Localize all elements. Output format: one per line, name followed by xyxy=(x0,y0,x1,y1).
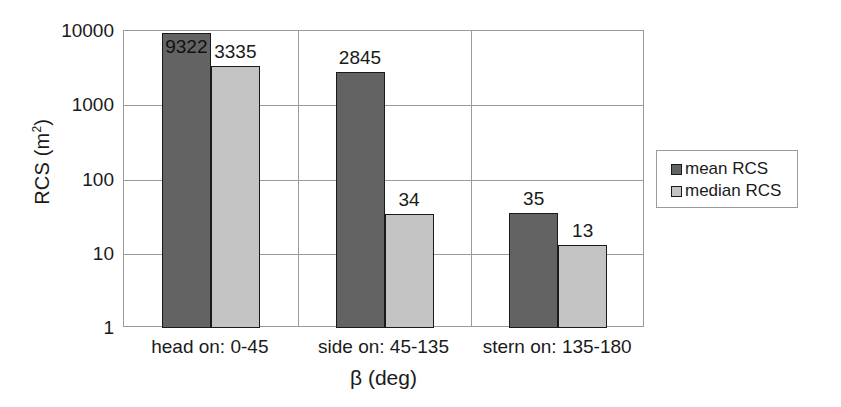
bar-value-label: 3335 xyxy=(205,42,266,61)
bar-mean xyxy=(509,213,558,328)
bar-value-label: 2845 xyxy=(330,48,391,67)
bar-value-label: 34 xyxy=(379,190,440,209)
y-axis-tick-label: 10000 xyxy=(11,21,123,40)
bar-value-label: 35 xyxy=(503,189,564,208)
bar-mean xyxy=(162,33,211,328)
x-axis-category-label: stern on: 135-180 xyxy=(447,336,667,357)
legend-swatch-mean-icon xyxy=(671,164,682,175)
legend-swatch-median-icon xyxy=(671,186,682,197)
legend-item-mean: mean RCS xyxy=(671,158,797,180)
x-axis-title: β (deg) xyxy=(123,366,644,390)
bar-mean xyxy=(336,72,385,328)
legend-label-median: median RCS xyxy=(685,181,781,201)
plot-area: 932233352845343513 xyxy=(123,30,644,327)
legend: mean RCS median RCS xyxy=(656,150,798,208)
y-axis-tick-label: 1000 xyxy=(11,95,123,114)
category-separator xyxy=(298,31,299,326)
chart-figure: RCS (m2) 100001000100101 932233352845343… xyxy=(0,0,841,407)
y-axis-tick-label: 10 xyxy=(11,244,123,263)
bar-median xyxy=(558,245,607,328)
legend-label-mean: mean RCS xyxy=(685,159,768,179)
legend-item-median: median RCS xyxy=(671,180,797,202)
y-axis-tick-label: 1 xyxy=(11,318,123,337)
bar-median xyxy=(385,214,434,328)
y-axis-tick-label: 100 xyxy=(11,170,123,189)
bar-median xyxy=(211,66,260,328)
bar-value-label: 13 xyxy=(552,221,613,240)
category-separator xyxy=(471,31,472,326)
